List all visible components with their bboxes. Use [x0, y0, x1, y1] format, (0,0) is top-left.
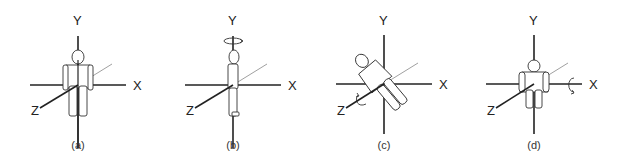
x-axis-label: X [288, 79, 297, 92]
y-axis-label: Y [529, 14, 538, 27]
z-axis-label: Z [186, 104, 194, 117]
rotation-arrow-icon [569, 78, 574, 94]
panel-c: Y X Z (c) [310, 0, 466, 166]
panel-d: Y X Z (d) [465, 0, 621, 166]
z-axis-label: Z [31, 104, 39, 117]
panel-caption: (c) [364, 140, 404, 151]
panel-caption: (d) [514, 140, 554, 151]
panel-a: Y X Z (a) [0, 0, 156, 166]
panel-b: Y X Z (b) [155, 0, 311, 166]
panel-caption: (b) [213, 140, 253, 151]
y-axis-label: Y [228, 14, 237, 27]
x-axis-label: X [589, 78, 598, 91]
x-axis-label: X [439, 78, 448, 91]
z-axis-label: Z [337, 104, 345, 117]
x-axis-label: X [133, 79, 142, 92]
human-figure-icon [228, 50, 239, 116]
human-figure-icon [347, 47, 410, 115]
y-axis-label: Y [379, 14, 388, 27]
y-axis-label: Y [73, 14, 82, 27]
z-axis-label: Z [487, 104, 495, 117]
panel-caption: (a) [58, 140, 98, 151]
